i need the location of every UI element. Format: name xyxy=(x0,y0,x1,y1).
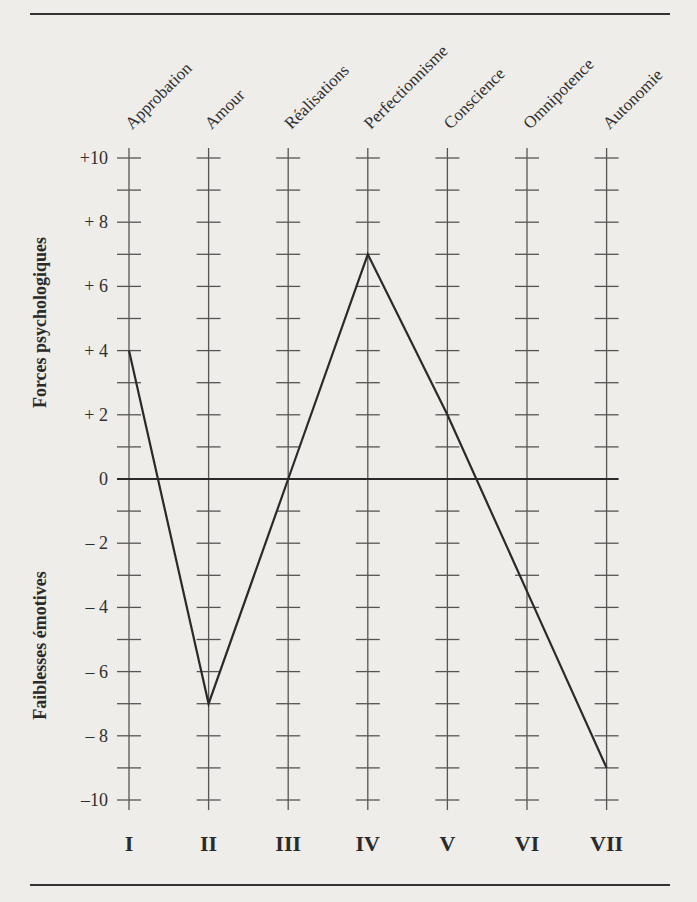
roman-numeral: VII xyxy=(590,831,623,856)
category-labels: ApprobationAmourRéalisationsPerfectionni… xyxy=(121,41,666,133)
y-tick-label: + 8 xyxy=(84,212,108,232)
roman-numeral: VI xyxy=(515,831,539,856)
roman-numeral-labels: IIIIIIIVVVIVII xyxy=(125,831,623,856)
y-tick-label: – 4 xyxy=(85,597,109,617)
category-label: Conscience xyxy=(440,64,509,133)
y-title-positive: Forces psychologiques xyxy=(30,237,50,408)
y-title-negative: Faiblesses émotives xyxy=(30,571,50,719)
category-label: Perfectionnisme xyxy=(360,41,452,133)
y-tick-labels: +10+ 8+ 6+ 4+ 20– 2– 4– 6– 8–10 xyxy=(80,148,108,810)
y-axis-titles: Forces psychologiquesFaiblesses émotives xyxy=(30,237,50,720)
category-label: Autonomie xyxy=(599,65,667,133)
roman-numeral: V xyxy=(439,831,455,856)
category-label: Amour xyxy=(201,85,249,133)
roman-numeral: I xyxy=(125,831,134,856)
category-label: Omnipotence xyxy=(519,55,597,133)
y-tick-label: +10 xyxy=(80,148,108,168)
y-tick-label: + 4 xyxy=(84,341,108,361)
chart: Forces psychologiquesFaiblesses émotives… xyxy=(0,0,697,902)
y-tick-label: –10 xyxy=(80,790,108,810)
y-tick-label: 0 xyxy=(99,469,108,489)
roman-numeral: II xyxy=(200,831,217,856)
y-tick-label: – 6 xyxy=(85,662,109,682)
roman-numeral: IV xyxy=(356,831,381,856)
roman-numeral: III xyxy=(275,831,301,856)
category-label: Réalisations xyxy=(281,61,353,133)
y-tick-label: + 6 xyxy=(84,276,108,296)
y-tick-label: – 8 xyxy=(85,726,109,746)
category-label: Approbation xyxy=(121,58,196,133)
y-tick-label: – 2 xyxy=(85,533,109,553)
y-tick-label: + 2 xyxy=(84,405,108,425)
